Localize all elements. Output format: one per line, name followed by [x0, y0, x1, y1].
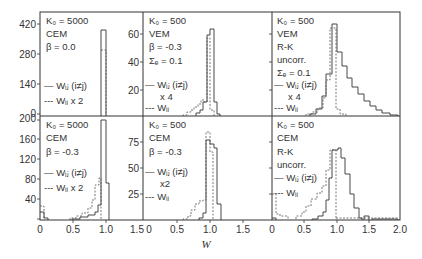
xtick-label: 1.0 [330, 224, 344, 235]
panel-label: K₀ = 500 [277, 15, 314, 26]
panel-label: β = -0.3 [149, 41, 182, 52]
legend-dashed: --- Wᵢᵢ [274, 102, 299, 113]
x-axis-title: W [201, 238, 211, 250]
ytick-label: 280 [19, 49, 36, 60]
legend-dashed: --- Wᵢᵢ x 2 [44, 95, 83, 106]
xtick-label: 1.5 [130, 224, 144, 235]
panel-label: R-K [277, 146, 294, 157]
xtick-label: 1.5 [236, 224, 250, 235]
panel-top-middle: K₀ = 500 VEM β = -0.3 Σₑ = 0.1 — Wᵢⱼ (i≠… [145, 15, 220, 116]
legend-solid: — Wᵢⱼ (i≠j) [274, 79, 317, 90]
panel-label: CEM [46, 28, 67, 39]
histogram-dashed [306, 28, 346, 116]
ytick-label: 140 [19, 79, 36, 90]
ytick-label: 420 [19, 19, 36, 30]
xtick-label: 0 [37, 224, 43, 235]
xtick-label: 0 [269, 224, 275, 235]
panel-top-right: K₀ = 500 VEM R-K uncorr. Σₑ = 0.1 — Wᵢⱼ … [274, 15, 398, 116]
yaxis-top-left: 0 140 280 420 [19, 19, 40, 119]
panel-label: K₀ = 5000 [46, 119, 88, 130]
xaxis-labels: 0 0.5 1.0 1.5 0 0.5 1.0 1.5 0 0.5 1.0 1.… [37, 224, 407, 250]
xtick-label: 0.5 [170, 224, 184, 235]
xtick-label: 0 [146, 224, 152, 235]
legend-dashed: --- Wᵢᵢ [145, 102, 170, 113]
panel-label: K₀ = 5000 [46, 15, 88, 26]
ytick-label: 120 [19, 154, 36, 165]
histogram-solid [101, 30, 106, 116]
panel-label: CEM [277, 132, 298, 143]
ytick-label: 50 [128, 163, 140, 174]
histogram-figure: 0 140 280 420 20 40 60 200 160 120 80 40 [0, 0, 422, 259]
panel-label: K₀ = 500 [277, 119, 314, 130]
legend-solid: — Wᵢⱼ (i≠j) [44, 167, 87, 178]
ytick-label: 60 [128, 29, 140, 40]
ytick-label: 200 [19, 113, 36, 124]
xtick-label: 0.5 [66, 224, 80, 235]
panel-label: CEM [149, 132, 170, 143]
legend-solid: — Wᵢⱼ (i≠j) [145, 79, 188, 90]
legend-scale: x2 [160, 178, 170, 189]
panel-label: VEM [277, 28, 298, 39]
panel-bottom-right: K₀ = 500 CEM R-K uncorr. — Wᵢⱼ (i≠j) ---… [272, 119, 398, 220]
panel-label: β = -0.3 [46, 146, 79, 157]
histogram-solid [196, 29, 220, 116]
legend-dashed: --- Wᵢᵢ [274, 187, 299, 198]
panel-label: Σₑ = 0.1 [277, 67, 310, 78]
xtick-label: 0.5 [297, 224, 311, 235]
panel-label: Σₑ = 0.1 [149, 55, 182, 66]
legend-solid: — Wᵢⱼ (i≠j) [274, 172, 317, 183]
ytick-label: 160 [19, 134, 36, 145]
ytick-label: 40 [128, 57, 140, 68]
panel-bottom-left: K₀ = 5000 CEM β = -0.3 — Wᵢⱼ (i≠j) --- W… [40, 119, 109, 220]
panel-bottom-middle: K₀ = 500 CEM β = -0.3 — Wᵢⱼ (i≠j) x2 ---… [145, 119, 221, 220]
ytick-label: 75 [128, 137, 140, 148]
ytick-label: 80 [25, 174, 37, 185]
yaxis-bottom-left: 200 160 120 80 40 [19, 113, 40, 219]
panel-label: CEM [46, 132, 67, 143]
panel-label: VEM [149, 28, 170, 39]
xtick-label: 1.0 [203, 224, 217, 235]
xtick-label: 2.0 [393, 224, 407, 235]
panel-label: β = 0.0 [46, 41, 76, 52]
legend-solid: — Wᵢⱼ (i≠j) [44, 80, 87, 91]
panel-label: uncorr. [277, 159, 306, 170]
panel-label: uncorr. [277, 54, 306, 65]
panel-label: β = -0.3 [149, 146, 182, 157]
histogram-dashed [101, 50, 106, 116]
panel-label: R-K [277, 41, 294, 52]
legend-dashed: --- Wᵢᵢ x 2 [44, 182, 83, 193]
yaxis-top-middle: 20 40 60 [128, 29, 143, 96]
ytick-label: 20 [128, 85, 140, 96]
legend-scale: x 4 [160, 91, 173, 102]
legend-dashed: --- Wᵢᵢ [145, 191, 170, 202]
histogram-dashed [183, 38, 214, 116]
legend-solid: — Wᵢⱼ (i≠j) [145, 166, 188, 177]
ytick-label: 40 [25, 194, 37, 205]
xtick-label: 1.0 [99, 224, 113, 235]
histogram-solid [310, 24, 398, 116]
panel-label: K₀ = 500 [149, 119, 186, 130]
yaxis-bottom-middle: 25 50 75 [128, 137, 143, 200]
legend-scale: x 4 [288, 91, 301, 102]
panel-top-left: K₀ = 5000 CEM β = 0.0 — Wᵢⱼ (i≠j) --- Wᵢ… [44, 15, 106, 116]
ytick-label: 25 [128, 189, 140, 200]
xtick-label: 1.5 [362, 224, 376, 235]
panel-label: K₀ = 500 [149, 15, 186, 26]
